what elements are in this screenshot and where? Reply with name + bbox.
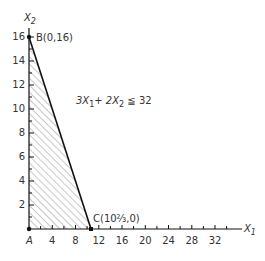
svg-text:16: 16 — [12, 31, 25, 42]
svg-text:20: 20 — [139, 235, 152, 246]
y-tick-labels: 2 4 6 8 10 12 14 16 — [12, 31, 25, 210]
origin-label: A — [25, 235, 33, 246]
svg-text:10: 10 — [12, 103, 25, 114]
point-b — [27, 35, 31, 39]
x-axis-label: X1 — [243, 223, 256, 237]
point-c — [89, 227, 93, 231]
svg-text:24: 24 — [162, 235, 175, 246]
x-tick-labels: 4 8 12 16 20 24 28 32 — [49, 235, 221, 246]
svg-text:2: 2 — [19, 199, 25, 210]
svg-text:8: 8 — [72, 235, 78, 246]
svg-text:8: 8 — [19, 127, 25, 138]
svg-text:4: 4 — [19, 175, 25, 186]
svg-text:32: 32 — [209, 235, 222, 246]
lp-chart: 2 4 6 8 10 12 14 16 4 8 12 16 20 24 28 3… — [0, 0, 265, 261]
constraint-equation: 3X1+ 2X2 ≦ 32 — [76, 95, 152, 109]
svg-text:4: 4 — [49, 235, 55, 246]
svg-text:28: 28 — [185, 235, 198, 246]
svg-text:14: 14 — [12, 55, 25, 66]
point-b-label: B(0,16) — [36, 32, 73, 43]
svg-text:12: 12 — [92, 235, 105, 246]
point-a — [27, 227, 31, 231]
y-axis-label: X2 — [23, 12, 36, 26]
point-c-label: C(10⅔,0) — [93, 213, 140, 224]
svg-text:6: 6 — [19, 151, 25, 162]
svg-text:12: 12 — [12, 79, 25, 90]
svg-text:16: 16 — [116, 235, 129, 246]
